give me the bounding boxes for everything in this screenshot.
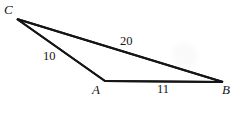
- triangle-svg: [0, 0, 238, 113]
- vertex-label-c: C: [4, 3, 13, 16]
- side-length-label-cb: 20: [120, 35, 133, 48]
- side-ca-line: [17, 19, 105, 81]
- geometry-figure: C A B 10 11 20: [0, 0, 238, 113]
- vertex-label-a: A: [92, 83, 100, 96]
- side-length-label-ab: 11: [157, 83, 169, 96]
- vertex-label-b: B: [222, 83, 230, 96]
- side-length-label-ca: 10: [43, 50, 56, 63]
